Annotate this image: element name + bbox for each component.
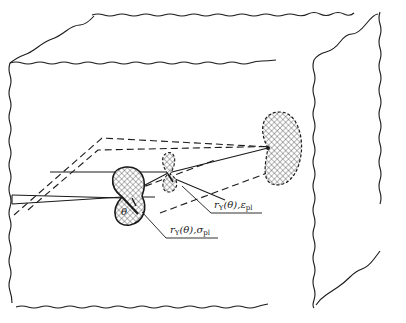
plastic-zone-stress-label: rY(θ),σpl (170, 225, 210, 237)
angle-theta-label: θ (121, 206, 127, 217)
top-face-left-edge (10, 16, 94, 63)
label-sub-pl: pl (203, 229, 210, 237)
plastic-zone-strain-label: rY(θ),εpl (214, 200, 253, 212)
top-face-back-edge (92, 13, 354, 17)
label-theta-epsilon: (θ),ε (223, 199, 245, 210)
front-face-top-edge (10, 60, 276, 64)
plastic-zone-back (263, 112, 302, 185)
plastic-zone-front (113, 167, 145, 225)
solid-block (9, 12, 381, 308)
front-face-left-edge (9, 63, 12, 303)
front-face-bottom-edge (16, 304, 268, 308)
front-face-right-edge (313, 60, 315, 308)
right-face-back-edge (379, 12, 381, 204)
right-face-bottom-edge (316, 251, 380, 305)
top-face-right-edge (314, 14, 378, 60)
label-theta-sigma: (θ),σ (179, 224, 203, 235)
diagram-canvas (0, 0, 406, 323)
label-sub-pl: pl (246, 204, 253, 212)
